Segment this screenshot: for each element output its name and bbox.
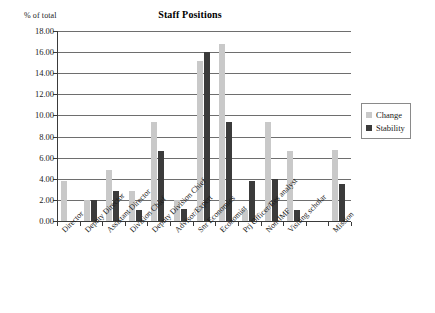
y-tick-label: 6.00 bbox=[39, 153, 54, 163]
bar-change[interactable] bbox=[84, 200, 90, 221]
x-tick-mark bbox=[57, 222, 58, 226]
legend-swatch-icon bbox=[366, 125, 372, 131]
bars-layer bbox=[57, 31, 351, 221]
y-tick-label: 10.00 bbox=[35, 110, 54, 120]
y-tick-label: 0.00 bbox=[39, 216, 54, 226]
staff-positions-chart: % of total Staff Positions 18.0016.0014.… bbox=[0, 0, 435, 313]
x-tick-mark bbox=[351, 222, 352, 226]
x-tick-mark bbox=[102, 222, 103, 226]
x-tick-mark bbox=[328, 222, 329, 226]
legend-swatch-icon bbox=[366, 112, 372, 118]
legend-item[interactable]: Change bbox=[366, 108, 405, 121]
bar-group[interactable] bbox=[57, 31, 80, 221]
y-tick-label: 2.00 bbox=[39, 195, 54, 205]
y-tick-label: 18.00 bbox=[35, 26, 54, 36]
y-tick-label: 8.00 bbox=[39, 132, 54, 142]
x-tick-mark bbox=[261, 222, 262, 226]
x-tick-mark bbox=[215, 222, 216, 226]
legend-item[interactable]: Stability bbox=[366, 121, 405, 134]
y-tick-label: 14.00 bbox=[35, 68, 54, 78]
bar-change[interactable] bbox=[197, 61, 203, 221]
x-tick-mark bbox=[170, 222, 171, 226]
legend-label: Stability bbox=[376, 123, 405, 133]
x-tick-mark bbox=[125, 222, 126, 226]
bar-change[interactable] bbox=[61, 181, 67, 221]
chart-title: Staff Positions bbox=[0, 9, 380, 20]
chart-legend: ChangeStability bbox=[361, 103, 411, 139]
bar-group[interactable] bbox=[215, 31, 238, 221]
bar-group[interactable] bbox=[238, 31, 261, 221]
x-tick-mark bbox=[80, 222, 81, 226]
bar-change[interactable] bbox=[219, 44, 225, 221]
bar-change[interactable] bbox=[332, 150, 338, 221]
x-tick-mark bbox=[147, 222, 148, 226]
x-tick-mark bbox=[238, 222, 239, 226]
x-tick-mark bbox=[283, 222, 284, 226]
y-tick-label: 4.00 bbox=[39, 174, 54, 184]
y-tick-label: 12.00 bbox=[35, 89, 54, 99]
x-tick-mark bbox=[306, 222, 307, 226]
x-tick-mark bbox=[193, 222, 194, 226]
bar-group[interactable] bbox=[328, 31, 351, 221]
bar-group[interactable] bbox=[306, 31, 329, 221]
legend-label: Change bbox=[376, 110, 402, 120]
bar-stability[interactable] bbox=[158, 151, 164, 221]
bar-group[interactable] bbox=[80, 31, 103, 221]
y-tick-label: 16.00 bbox=[35, 47, 54, 57]
